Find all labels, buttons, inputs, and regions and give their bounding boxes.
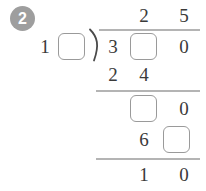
division-vinculum [99, 29, 200, 31]
quotient-ones-digit: 5 [172, 4, 196, 28]
dividend-tens-input-box[interactable] [130, 33, 157, 60]
second-product-ones-input-box[interactable] [163, 126, 190, 153]
first-subtraction-rule [96, 90, 200, 92]
dividend-hundreds-digit: 3 [101, 35, 125, 59]
problem-number-badge: 2 [10, 6, 35, 31]
division-bracket-icon [88, 28, 102, 62]
second-product-tens-digit: 6 [132, 128, 156, 152]
bring-down-tens-input-box[interactable] [130, 95, 157, 122]
quotient-tens-digit: 2 [132, 4, 156, 28]
first-product-tens-digit: 2 [101, 63, 125, 87]
remainder-tens-digit: 1 [132, 163, 156, 187]
remainder-ones-digit: 0 [172, 163, 196, 187]
divisor-tens-digit: 1 [33, 35, 57, 59]
divisor-ones-input-box[interactable] [58, 33, 85, 60]
long-division-worksheet: 2 2 5 1 3 0 2 4 0 6 1 0 [0, 0, 206, 191]
first-product-ones-digit: 4 [132, 63, 156, 87]
bring-down-ones-digit: 0 [172, 97, 196, 121]
dividend-ones-digit: 0 [172, 35, 196, 59]
second-subtraction-rule [96, 158, 200, 160]
